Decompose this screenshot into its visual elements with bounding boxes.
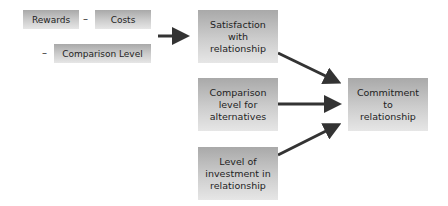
- arrow-investment-to-commitment: [278, 126, 336, 155]
- costs-box: Costs: [95, 10, 151, 29]
- costs-label: Costs: [111, 14, 136, 26]
- investment-box: Level of investment in relationship: [198, 147, 278, 200]
- arrow-satisfaction-to-commitment: [278, 53, 336, 81]
- alternatives-line: alternatives: [210, 111, 267, 123]
- minus-operator: –: [83, 13, 88, 24]
- alternatives-box: Comparison level for alternatives: [198, 78, 278, 131]
- investment-line: investment in: [205, 168, 270, 180]
- satisfaction-line: Satisfaction: [210, 19, 266, 31]
- minus-operator: –: [42, 47, 47, 58]
- commitment-line: relationship: [357, 111, 419, 123]
- commitment-line: Commitment: [357, 87, 419, 99]
- investment-line: relationship: [205, 180, 270, 192]
- alternatives-line: level for: [210, 99, 267, 111]
- rewards-label: Rewards: [32, 14, 70, 26]
- satisfaction-line: relationship: [210, 43, 266, 55]
- satisfaction-box: Satisfaction with relationship: [198, 10, 278, 63]
- comparison-level-label: Comparison Level: [62, 48, 143, 60]
- rewards-box: Rewards: [23, 10, 79, 29]
- commitment-line: to: [357, 99, 419, 111]
- commitment-box: Commitment to relationship: [348, 78, 428, 131]
- comparison-level-box: Comparison Level: [54, 44, 151, 63]
- alternatives-line: Comparison: [210, 87, 267, 99]
- satisfaction-line: with: [210, 31, 266, 43]
- investment-line: Level of: [205, 156, 270, 168]
